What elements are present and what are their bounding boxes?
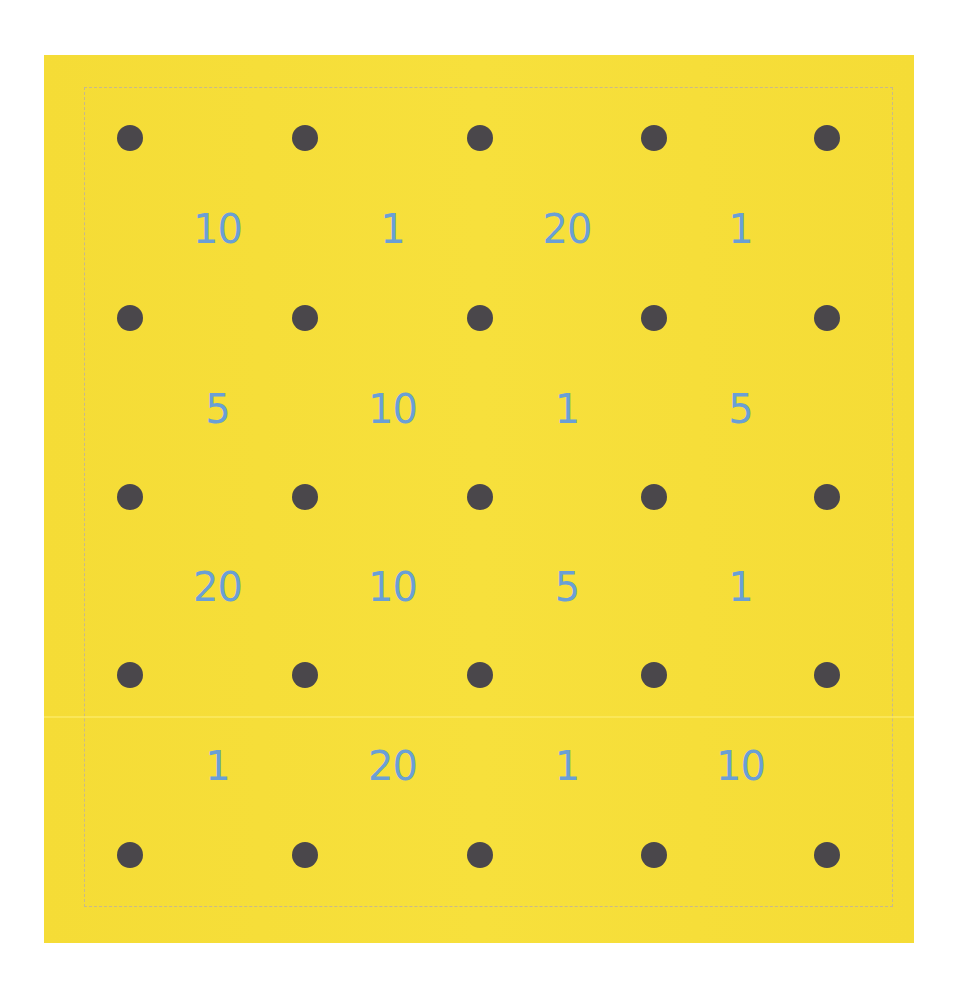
cell-value: 10: [368, 389, 417, 429]
peg-dot-icon: [814, 662, 840, 688]
peg-dot-icon: [641, 662, 667, 688]
cell-value: 5: [205, 389, 229, 429]
peg-dot-icon: [292, 125, 318, 151]
peg-dot-icon: [814, 484, 840, 510]
peg-dot-icon: [814, 305, 840, 331]
cell-value: 10: [193, 209, 242, 249]
cell-value: 5: [728, 389, 752, 429]
peg-dot-icon: [467, 125, 493, 151]
peg-dot-icon: [467, 662, 493, 688]
peg-dot-icon: [117, 125, 143, 151]
peg-dot-icon: [292, 305, 318, 331]
cell-value: 10: [368, 567, 417, 607]
cell-value: 1: [205, 746, 229, 786]
cell-value: 5: [555, 567, 579, 607]
peg-dot-icon: [117, 842, 143, 868]
peg-dot-icon: [292, 484, 318, 510]
cell-value: 10: [716, 746, 765, 786]
peg-dot-icon: [117, 484, 143, 510]
peg-dot-icon: [292, 662, 318, 688]
cell-value: 1: [380, 209, 404, 249]
peg-dot-icon: [641, 842, 667, 868]
peg-dot-icon: [641, 125, 667, 151]
cell-value: 1: [555, 746, 579, 786]
peg-dot-icon: [814, 125, 840, 151]
peg-dot-icon: [814, 842, 840, 868]
peg-dot-icon: [467, 305, 493, 331]
dot-grid-board: 10120151015201051120110: [44, 55, 914, 943]
peg-dot-icon: [641, 484, 667, 510]
paper-seam: [44, 716, 914, 718]
peg-dot-icon: [117, 662, 143, 688]
peg-dot-icon: [467, 842, 493, 868]
cell-value: 20: [193, 567, 242, 607]
cell-value: 1: [728, 209, 752, 249]
cell-value: 20: [368, 746, 417, 786]
peg-dot-icon: [117, 305, 143, 331]
cell-value: 1: [555, 389, 579, 429]
cell-value: 20: [543, 209, 592, 249]
peg-dot-icon: [641, 305, 667, 331]
peg-dot-icon: [292, 842, 318, 868]
cell-value: 1: [728, 567, 752, 607]
peg-dot-icon: [467, 484, 493, 510]
